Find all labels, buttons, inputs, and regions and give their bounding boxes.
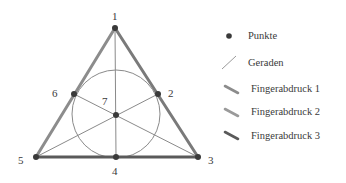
legend-label-fingerprint-1: Fingerabdruck 1 [251, 83, 320, 94]
point-label-7: 7 [102, 95, 108, 107]
point-7 [113, 112, 119, 118]
point-label-6: 6 [52, 87, 58, 99]
legend-label-fingerprint-3: Fingerabdruck 3 [251, 130, 320, 141]
legend: Punkte Geraden Fingerabdruck 1 Fingerabd… [222, 30, 320, 141]
fingerprint-lines [36, 28, 198, 157]
point-3 [195, 154, 201, 160]
legend-fingerprint-2-icon [225, 109, 238, 116]
line-1-4 [115, 28, 116, 157]
point-label-1: 1 [112, 10, 118, 22]
lines-group [36, 28, 198, 158]
legend-label-points: Punkte [248, 30, 278, 41]
point-label-3: 3 [208, 154, 214, 166]
point-6 [71, 91, 77, 97]
point-2 [155, 91, 161, 97]
point-1 [112, 25, 118, 31]
legend-line-icon [222, 56, 236, 69]
legend-label-fingerprint-2: Fingerabdruck 2 [251, 106, 320, 117]
legend-point-icon [226, 33, 232, 39]
point-label-2: 2 [168, 87, 174, 99]
point-label-5: 5 [18, 154, 24, 166]
points-group [33, 25, 201, 160]
legend-fingerprint-1-icon [225, 86, 238, 93]
legend-fingerprint-3-icon [225, 132, 238, 139]
point-4 [113, 154, 119, 160]
point-5 [33, 154, 39, 160]
point-label-4: 4 [112, 165, 118, 177]
legend-label-lines: Geraden [248, 57, 284, 68]
fano-plane-diagram: 1 2 3 4 5 6 7 Punkte Geraden Fingerabdru… [0, 0, 346, 183]
